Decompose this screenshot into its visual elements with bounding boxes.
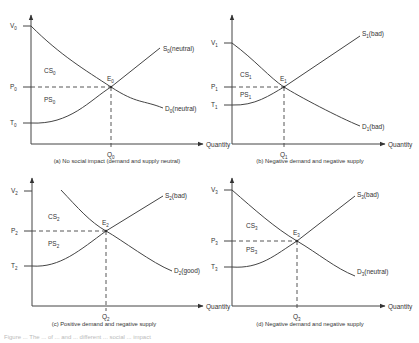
panel-b: QuantityV1P1T1E1Q1CS1PS1S1(bad)D1(bad)(b… — [211, 15, 413, 164]
demand-curve-label: D0(neutral) — [165, 105, 196, 114]
t-label: T3 — [211, 263, 218, 272]
demand-curve-label: D1(bad) — [362, 123, 384, 132]
v-label: V3 — [211, 186, 218, 195]
v-label: V1 — [211, 39, 218, 48]
consumer-surplus-label: CS0 — [44, 67, 56, 76]
equilibrium-label: E2 — [102, 219, 109, 228]
v-label: V0 — [10, 22, 17, 31]
supply-curve-label: S2(bad) — [165, 192, 187, 201]
equilibrium-label: E1 — [280, 75, 287, 84]
consumer-surplus-label: CS2 — [48, 213, 60, 222]
x-axis-label: Quantity — [206, 141, 231, 149]
p-label: P3 — [211, 237, 218, 246]
supply-curve-label: S1(bad) — [362, 30, 384, 39]
v-label: V2 — [11, 187, 18, 196]
supply-curve-label: S3(bad) — [357, 191, 379, 200]
panel-caption: (c) Positive demand and negative supply — [52, 321, 157, 327]
equilibrium-label: E3 — [293, 229, 300, 238]
panel-c: QuantityV2P2T2E2Q2CS2PS2S2(bad)D2(good)(… — [11, 178, 231, 327]
equilibrium-point — [110, 86, 113, 89]
t-label: T2 — [11, 262, 18, 271]
producer-surplus-label: PS3 — [246, 246, 258, 255]
panel-caption: (a) No social impact (demand and supply … — [54, 158, 181, 164]
supply-curve — [31, 48, 160, 123]
equilibrium-point — [283, 86, 286, 89]
demand-curve-label: D2(good) — [174, 267, 200, 276]
panel-caption: (d) Negative demand and negative supply — [256, 321, 363, 327]
producer-surplus-label: PS1 — [240, 91, 252, 100]
t-label: T1 — [211, 101, 218, 110]
p-label: P1 — [211, 83, 218, 92]
p-label: P2 — [11, 227, 18, 236]
p-label: P0 — [10, 83, 17, 92]
x-axis-label: Quantity — [388, 141, 413, 149]
producer-surplus-label: PS2 — [48, 240, 60, 249]
demand-curve — [61, 190, 172, 271]
surplus-diagram-figure: QuantityV0P0T0E0Q0CS0PS0S0(neutral)D0(ne… — [0, 0, 419, 343]
x-axis-label: Quantity — [206, 303, 231, 311]
panel-d: QuantityV3P3T3E3Q3CS3PS3S3(bad)D3(neutra… — [211, 178, 413, 327]
panel-caption: (b) Negative demand and negative supply — [256, 158, 363, 164]
figure-footer-caption: Figure ... The ... of ... and ... differ… — [4, 334, 151, 340]
consumer-surplus-label: CS3 — [246, 222, 258, 231]
equilibrium-point — [105, 230, 108, 233]
equilibrium-label: E0 — [107, 75, 114, 84]
equilibrium-point — [296, 240, 299, 243]
demand-curve — [232, 43, 360, 126]
t-label: T0 — [10, 119, 17, 128]
x-axis-label: Quantity — [388, 303, 413, 311]
demand-curve-label: D3(neutral) — [357, 268, 388, 277]
consumer-surplus-label: CS1 — [240, 71, 252, 80]
supply-curve-label: S0(neutral) — [163, 45, 194, 54]
producer-surplus-label: PS0 — [44, 96, 56, 105]
panel-a: QuantityV0P0T0E0Q0CS0PS0S0(neutral)D0(ne… — [10, 15, 231, 164]
